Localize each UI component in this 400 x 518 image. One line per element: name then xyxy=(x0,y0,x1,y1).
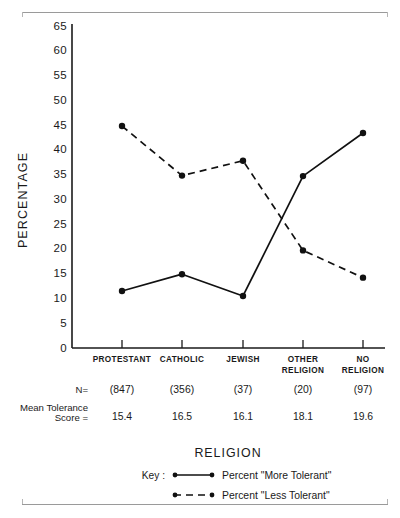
legend-swatch-solid-marker-right xyxy=(210,473,215,478)
y-tick-label: 65 xyxy=(54,20,67,32)
mean-value: 19.6 xyxy=(353,411,373,422)
x-category-label-other-religion-line1: OTHER xyxy=(288,355,318,364)
series-line xyxy=(122,126,363,278)
mean-row-label-line2: Score = xyxy=(55,412,89,423)
x-category-label-no-religion-line2: RELIGION xyxy=(342,366,384,375)
mean-value: 15.4 xyxy=(112,411,132,422)
legend-key-label: Key : xyxy=(142,470,165,481)
data-point xyxy=(360,274,366,280)
data-point xyxy=(360,130,366,136)
n-value: (37) xyxy=(234,384,252,395)
data-point xyxy=(119,123,125,129)
data-point xyxy=(240,293,246,299)
y-tick-label: 55 xyxy=(54,69,67,81)
legend-label-less-tolerant: Percent "Less Tolerant" xyxy=(222,490,330,501)
x-category-label-catholic: CATHOLIC xyxy=(160,355,205,364)
y-tick-label: 25 xyxy=(54,218,67,230)
mean-value: 16.5 xyxy=(172,411,192,422)
mean-value: 16.1 xyxy=(233,411,253,422)
mean-value: 18.1 xyxy=(293,411,313,422)
data-point xyxy=(119,288,125,294)
data-series-layer xyxy=(119,123,366,299)
data-point xyxy=(300,173,306,179)
figure-container: PERCENTAGE 65 60 55 50 45 40 35 30 25 20… xyxy=(0,0,400,518)
x-category-label-no-religion-line1: NO xyxy=(357,355,370,364)
mean-tolerance-row: Mean Tolerance Score = 15.4 16.5 16.1 18… xyxy=(20,402,373,423)
chart-legend: Key : Percent "More Tolerant" Percent "L… xyxy=(142,470,332,501)
line-chart: PERCENTAGE 65 60 55 50 45 40 35 30 25 20… xyxy=(0,0,400,518)
n-value: (20) xyxy=(294,384,312,395)
legend-entry-more-tolerant: Percent "More Tolerant" xyxy=(173,470,332,481)
y-tick-label: 10 xyxy=(54,292,67,304)
legend-label-more-tolerant: Percent "More Tolerant" xyxy=(222,470,332,481)
y-axis-ticks: 65 60 55 50 45 40 35 30 25 20 15 10 5 0 xyxy=(54,20,67,354)
x-category-label-jewish: JEWISH xyxy=(226,355,260,364)
legend-entry-less-tolerant: Percent "Less Tolerant" xyxy=(173,490,330,501)
x-category-label-other-religion-line2: RELIGION xyxy=(282,366,324,375)
y-tick-label: 35 xyxy=(54,168,67,180)
y-tick-label: 5 xyxy=(60,317,67,329)
legend-swatch-solid-marker-left xyxy=(173,473,178,478)
data-point xyxy=(300,247,306,253)
x-axis-category-labels: PROTESTANT CATHOLIC JEWISH OTHER RELIGIO… xyxy=(93,355,384,375)
x-axis-title: RELIGION xyxy=(194,446,261,460)
y-tick-label: 50 xyxy=(54,94,67,106)
n-value: (97) xyxy=(354,384,372,395)
series-less-tolerant xyxy=(119,123,366,281)
x-category-label-protestant: PROTESTANT xyxy=(93,355,151,364)
y-tick-label: 0 xyxy=(60,342,67,354)
data-point xyxy=(179,172,185,178)
y-tick-label: 20 xyxy=(54,242,67,254)
y-tick-label: 30 xyxy=(54,193,67,205)
y-tick-label: 40 xyxy=(54,143,67,155)
legend-swatch-dashed-marker-left xyxy=(173,493,178,498)
legend-swatch-dashed-marker-right xyxy=(210,493,215,498)
series-line xyxy=(122,133,363,296)
series-more-tolerant xyxy=(119,130,366,299)
n-value: (847) xyxy=(110,384,134,395)
y-tick-label: 15 xyxy=(54,267,67,279)
x-axis-ticks xyxy=(122,340,363,348)
y-axis-label: PERCENTAGE xyxy=(16,152,30,248)
y-tick-label: 45 xyxy=(54,119,67,131)
data-point xyxy=(179,271,185,277)
y-tick-label: 60 xyxy=(54,44,67,56)
n-value: (356) xyxy=(170,384,194,395)
n-row-label: N= xyxy=(75,384,88,395)
data-point xyxy=(240,158,246,164)
n-row: N= (847) (356) (37) (20) (97) xyxy=(75,384,372,395)
